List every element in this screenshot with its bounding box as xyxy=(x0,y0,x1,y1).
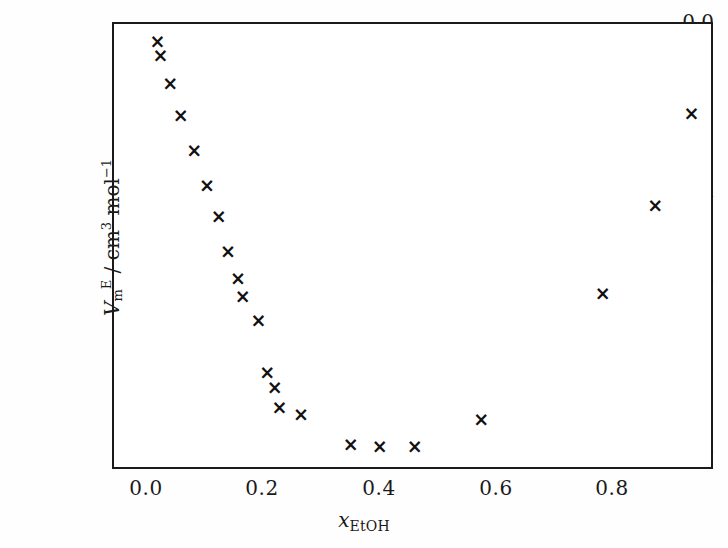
plot-area: ×××××××××××××××××××××× xyxy=(112,22,713,469)
x-axis-label-subscript: EtOH xyxy=(349,518,389,534)
x-axis-label-symbol: x xyxy=(338,508,349,532)
y-axis-unit-mol: mol xyxy=(100,178,124,215)
x-tick-label: 0.4 xyxy=(362,476,395,500)
figure: 0.0 − 0.2 − 0.4 − 0.6 − 0.8 − 1.0 0.0 0.… xyxy=(0,0,728,548)
y-axis-label-subscript: m xyxy=(110,289,125,301)
x-axis-label: xEtOH xyxy=(0,508,728,534)
x-tick-label: 0.2 xyxy=(245,476,278,500)
y-axis-unit-exponent: 3 xyxy=(99,222,114,230)
y-axis-unit-prefix: / cm xyxy=(100,230,124,273)
y-axis-label-symbol: V xyxy=(100,302,124,316)
y-axis-label: VmE / cm3 mol−1 xyxy=(99,13,126,461)
y-axis-unit-mol-exponent: −1 xyxy=(99,159,114,178)
x-tick-label: 0.6 xyxy=(479,476,512,500)
x-tick-label: 0.8 xyxy=(595,476,628,500)
y-axis-label-superscript: E xyxy=(99,280,114,290)
x-tick-label: 0.0 xyxy=(129,476,162,500)
scatter-series: ×××××××××××××××××××××× xyxy=(114,24,711,467)
